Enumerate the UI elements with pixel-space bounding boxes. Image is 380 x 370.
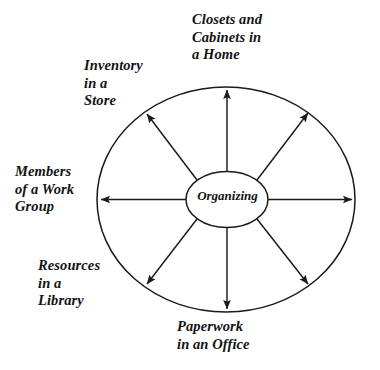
spoke-arrow-northeast	[257, 113, 308, 180]
spoke-label-inventory-store: Inventory in a Store	[84, 57, 143, 110]
spoke-label-members-work-group: Members of a Work Group	[15, 163, 74, 216]
spoke-label-paperwork-office: Paperwork in an Office	[177, 318, 250, 353]
spoke-arrow-southwest	[147, 219, 197, 284]
spoke-label-resources-library: Resources in a Library	[38, 257, 100, 310]
spoke-label-closets-cabinets-home: Closets and Cabinets in a Home	[192, 11, 262, 64]
spoke-arrow-southeast	[257, 219, 308, 284]
spoke-arrow-northwest	[147, 114, 197, 180]
diagram-canvas: Organizing Closets and Cabinets in a Hom…	[0, 0, 380, 370]
center-label: Organizing	[187, 189, 268, 203]
